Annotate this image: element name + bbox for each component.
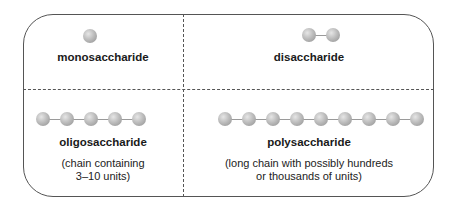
sugar-unit-icon [314,112,328,126]
description-line: or thousands of units) [184,170,434,183]
sugar-unit-icon [266,112,280,126]
sugar-unit-icon [218,112,232,126]
description-line: (chain containing [23,157,183,170]
sugar-unit-icon [83,29,97,43]
oligosaccharide-description: (chain containing 3–10 units) [23,157,183,183]
sugar-unit-icon [302,28,316,42]
polysaccharide-description: (long chain with possibly hundreds or th… [184,157,434,183]
sugar-unit-icon [386,112,400,126]
oligosaccharide-chain [36,112,146,126]
sugar-unit-icon [132,112,146,126]
sugar-unit-icon [338,112,352,126]
sugar-unit-icon [242,112,256,126]
polysaccharide-label: polysaccharide [184,136,434,148]
sugar-unit-icon [326,28,340,42]
monosaccharide-label: monosaccharide [23,51,183,63]
sugar-unit-icon [36,112,50,126]
disaccharide-chain [302,28,340,42]
oligosaccharide-label: oligosaccharide [23,136,183,148]
description-line: 3–10 units) [23,170,183,183]
sugar-unit-icon [84,112,98,126]
disaccharide-label: disaccharide [184,51,434,63]
monosaccharide-unit [83,29,97,43]
sugar-unit-icon [362,112,376,126]
sugar-unit-icon [108,112,122,126]
description-line: (long chain with possibly hundreds [184,157,434,170]
sugar-unit-icon [290,112,304,126]
sugar-unit-icon [60,112,74,126]
sugar-unit-icon [410,112,424,126]
polysaccharide-chain [218,112,424,126]
horizontal-divider [23,89,434,90]
